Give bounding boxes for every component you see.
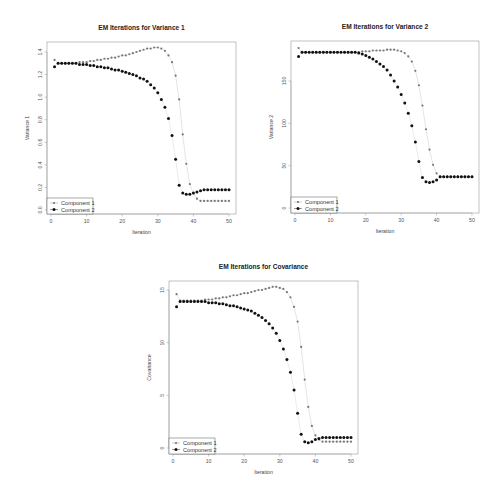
legend-marker-icon [175, 448, 178, 451]
x-tick-label: 50 [348, 458, 354, 464]
series-line-2 [177, 302, 351, 443]
data-point [179, 300, 182, 303]
data-point [310, 440, 313, 443]
data-point [253, 312, 256, 315]
data-point [228, 304, 231, 307]
data-point [243, 292, 245, 294]
data-point [189, 300, 192, 303]
data-point [175, 305, 178, 308]
data-point [293, 306, 295, 308]
data-point [325, 441, 327, 443]
data-point [346, 441, 348, 443]
data-point [264, 319, 267, 322]
x-tick-label: 40 [313, 458, 319, 464]
data-point [236, 305, 239, 308]
data-point [232, 294, 234, 296]
data-point [193, 300, 196, 303]
data-point [342, 436, 345, 439]
data-point [229, 295, 231, 297]
data-point [207, 301, 210, 304]
data-point [211, 301, 214, 304]
y-tick-label: 10 [159, 340, 165, 346]
data-point [175, 293, 177, 295]
chart-svg: EM Iterations for Covariance01020304050I… [0, 0, 502, 496]
data-point [350, 441, 352, 443]
chart-covariance: EM Iterations for Covariance01020304050I… [0, 0, 502, 496]
data-point [325, 436, 328, 439]
data-point [225, 303, 228, 306]
data-point [232, 304, 235, 307]
data-point [314, 434, 316, 436]
data-point [239, 306, 242, 309]
chart-title: EM Iterations for Covariance [219, 263, 309, 270]
x-tick-label: 10 [206, 458, 212, 464]
data-point [215, 297, 217, 299]
data-point [289, 296, 291, 298]
data-point [182, 300, 185, 303]
data-point [339, 441, 341, 443]
data-point [293, 389, 296, 392]
data-point [350, 436, 353, 439]
data-point [200, 300, 203, 303]
series-line-1 [177, 287, 351, 442]
data-point [300, 433, 303, 436]
data-point [329, 441, 331, 443]
data-point [211, 298, 213, 300]
data-point [264, 288, 266, 290]
data-point [250, 310, 253, 313]
data-point [300, 346, 302, 348]
data-point [268, 287, 270, 289]
data-point [186, 300, 189, 303]
data-point [328, 436, 331, 439]
data-point [307, 441, 310, 444]
data-point [335, 436, 338, 439]
data-point [303, 440, 306, 443]
legend-label: Component 2 [183, 447, 217, 453]
data-point [268, 322, 271, 325]
y-tick-label: 0 [159, 446, 165, 449]
data-point [257, 314, 260, 317]
data-point [285, 358, 288, 361]
data-point [218, 302, 221, 305]
data-point [339, 436, 342, 439]
data-point [261, 316, 264, 319]
data-point [332, 436, 335, 439]
y-tick-label: 15 [159, 287, 165, 293]
data-point [282, 288, 284, 290]
data-point [278, 339, 281, 342]
series-points-2 [175, 300, 352, 444]
data-point [317, 437, 320, 440]
data-point [261, 289, 263, 291]
data-point [311, 425, 313, 427]
data-point [243, 307, 246, 310]
data-point [314, 438, 317, 441]
legend-label: Component 1 [183, 440, 217, 446]
data-point [307, 406, 309, 408]
data-point [225, 296, 227, 298]
data-point [304, 378, 306, 380]
data-point [208, 298, 210, 300]
data-point [279, 287, 281, 289]
legend-marker-icon [175, 442, 177, 444]
data-point [275, 286, 277, 288]
data-point [343, 441, 345, 443]
data-point [271, 326, 274, 329]
data-point [218, 297, 220, 299]
data-point [275, 332, 278, 335]
x-tick-label: 20 [241, 458, 247, 464]
data-point [297, 321, 299, 323]
data-point [222, 296, 224, 298]
plot-frame [169, 281, 358, 454]
data-point [214, 301, 217, 304]
data-point [286, 291, 288, 293]
y-tick-label: 5 [159, 394, 165, 397]
data-point [321, 441, 323, 443]
y-axis-label: Covariance [146, 354, 152, 380]
series-points-1 [175, 286, 352, 443]
data-point [336, 441, 338, 443]
data-point [247, 292, 249, 294]
data-point [272, 286, 274, 288]
data-point [346, 436, 349, 439]
data-point [257, 289, 259, 291]
data-point [296, 412, 299, 415]
